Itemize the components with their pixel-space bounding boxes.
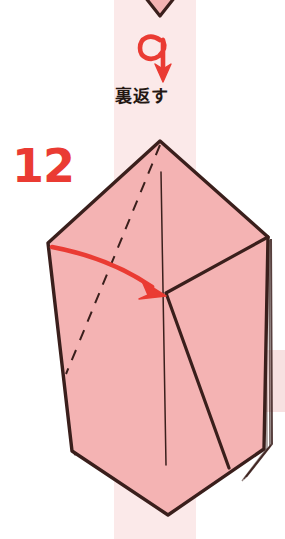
origami-figure-svg: [0, 0, 285, 539]
origami-diagram-canvas: 12 裏返す: [0, 0, 285, 539]
step-number: 12: [12, 143, 74, 189]
turn-over-instruction-label: 裏返す: [115, 88, 169, 105]
paper-silhouette: [48, 141, 268, 515]
folded-paper-model: [48, 141, 272, 515]
